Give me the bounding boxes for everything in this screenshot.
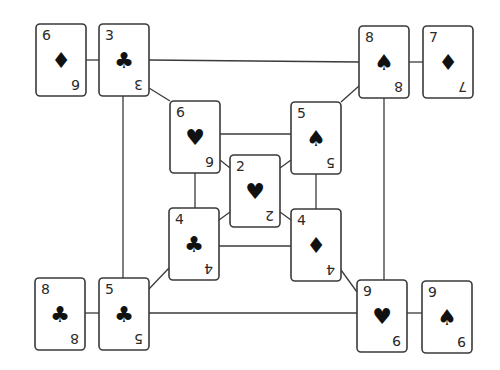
card-rank-top: 6 xyxy=(42,27,51,43)
card-rank-top: 9 xyxy=(428,284,437,300)
card-rank-bottom: 5 xyxy=(134,331,143,347)
edge-6H-2H xyxy=(220,160,230,168)
edge-8S-5S xyxy=(341,86,359,102)
card-4-of-diamonds: 4♦4 xyxy=(291,209,341,281)
club-icon: ♣ xyxy=(50,302,70,327)
club-icon: ♣ xyxy=(184,232,204,257)
card-graph-diagram: 6♦63♣38♠87♦76♥65♠52♥24♣44♦48♣85♣59♥99♠9 xyxy=(0,0,500,370)
card-rank-bottom: 6 xyxy=(71,77,80,93)
heart-icon: ♥ xyxy=(372,304,392,329)
card-8-of-spades: 8♠8 xyxy=(359,26,409,98)
heart-icon: ♥ xyxy=(185,125,205,150)
card-6-of-diamonds: 6♦6 xyxy=(36,24,86,96)
card-4-of-clubs: 4♣4 xyxy=(169,208,219,280)
card-rank-top: 3 xyxy=(105,27,114,43)
card-7-of-diamonds: 7♦7 xyxy=(423,26,473,98)
card-5-of-clubs: 5♣5 xyxy=(99,278,149,350)
edge-5S-2H xyxy=(280,160,291,168)
card-rank-top: 7 xyxy=(429,29,438,45)
card-rank-bottom: 8 xyxy=(70,331,79,347)
card-3-of-clubs: 3♣3 xyxy=(99,24,149,96)
diamond-icon: ♦ xyxy=(51,48,71,73)
card-rank-top: 9 xyxy=(363,283,372,299)
edge-5C-4C xyxy=(148,268,169,290)
diamond-icon: ♦ xyxy=(438,50,458,75)
card-rank-bottom: 4 xyxy=(326,262,335,278)
card-rank-top: 8 xyxy=(365,29,374,45)
card-rank-bottom: 9 xyxy=(457,334,466,350)
card-rank-top: 5 xyxy=(297,105,306,121)
cards-layer: 6♦63♣38♠87♦76♥65♠52♥24♣44♦48♣85♣59♥99♠9 xyxy=(35,24,473,353)
card-rank-bottom: 8 xyxy=(394,79,403,95)
card-rank-bottom: 2 xyxy=(265,208,274,224)
card-rank-bottom: 5 xyxy=(326,155,335,171)
edge-3C-8S xyxy=(149,60,359,62)
card-rank-top: 4 xyxy=(175,211,184,227)
card-rank-top: 4 xyxy=(297,212,306,228)
card-5-of-spades: 5♠5 xyxy=(291,102,341,174)
card-9-of-spades: 9♠9 xyxy=(422,281,472,353)
card-rank-bottom: 4 xyxy=(204,261,213,277)
card-rank-top: 2 xyxy=(236,158,245,174)
club-icon: ♣ xyxy=(114,302,134,327)
card-rank-top: 5 xyxy=(105,281,114,297)
card-8-of-clubs: 8♣8 xyxy=(35,278,85,350)
card-2-of-hearts: 2♥2 xyxy=(230,155,280,227)
diamond-icon: ♦ xyxy=(306,233,326,258)
edge-4C-2H xyxy=(219,212,230,220)
card-rank-bottom: 6 xyxy=(205,154,214,170)
card-rank-bottom: 9 xyxy=(392,333,401,349)
card-rank-bottom: 3 xyxy=(134,77,143,93)
heart-icon: ♥ xyxy=(245,179,265,204)
card-rank-top: 8 xyxy=(41,281,50,297)
spade-icon: ♠ xyxy=(437,305,457,330)
spade-icon: ♠ xyxy=(306,126,326,151)
card-6-of-hearts: 6♥6 xyxy=(170,101,220,173)
card-rank-top: 6 xyxy=(176,104,185,120)
edge-3C-6H xyxy=(149,88,170,101)
club-icon: ♣ xyxy=(114,48,134,73)
edge-9H-4D xyxy=(341,270,357,292)
card-9-of-hearts: 9♥9 xyxy=(357,280,407,352)
card-rank-bottom: 7 xyxy=(458,79,467,95)
edge-4D-2H xyxy=(280,212,291,220)
spade-icon: ♠ xyxy=(374,50,394,75)
